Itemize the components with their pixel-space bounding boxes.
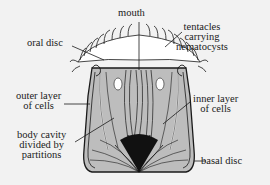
label-basal-disc: basal disc xyxy=(201,156,242,166)
label-tentacles: tentacles carrying nematocysts xyxy=(176,22,228,52)
label-oral-disc: oral disc xyxy=(27,38,63,48)
body-column xyxy=(84,65,195,172)
label-tentacles-line3: nematocysts xyxy=(176,42,228,52)
label-body-cavity: body cavity divided by partitions xyxy=(17,130,66,160)
label-body-cavity-line3: partitions xyxy=(17,150,66,160)
sea-anemone-diagram: mouth oral disc tentacles carrying nemat… xyxy=(0,0,270,185)
label-inner-layer: inner layer of cells xyxy=(193,94,238,114)
label-mouth: mouth xyxy=(118,8,145,18)
label-mouth-text: mouth xyxy=(118,7,145,18)
label-oral-disc-text: oral disc xyxy=(27,37,63,48)
label-basal-disc-text: basal disc xyxy=(201,155,242,166)
label-outer-layer-line2: of cells xyxy=(16,101,61,111)
label-inner-layer-line2: of cells xyxy=(193,104,238,114)
label-outer-layer: outer layer of cells xyxy=(16,91,61,111)
